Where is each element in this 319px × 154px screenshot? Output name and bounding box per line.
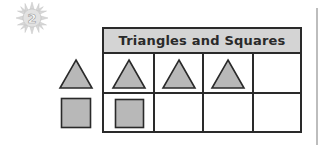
table-cell-square (114, 98, 146, 130)
table-cell-triangle (210, 58, 246, 90)
page-margin-rule (316, 8, 318, 145)
table-title: Triangles and Squares (104, 29, 300, 54)
table-cell-triangle (111, 58, 147, 90)
badge-number: 2 (27, 11, 36, 26)
sun-icon: 2 (16, 2, 48, 34)
table-cell-triangle (161, 58, 197, 90)
row-divider (104, 92, 300, 94)
legend-triangle (58, 58, 94, 90)
legend-square (60, 97, 92, 129)
tally-table: Triangles and Squares (102, 27, 302, 133)
